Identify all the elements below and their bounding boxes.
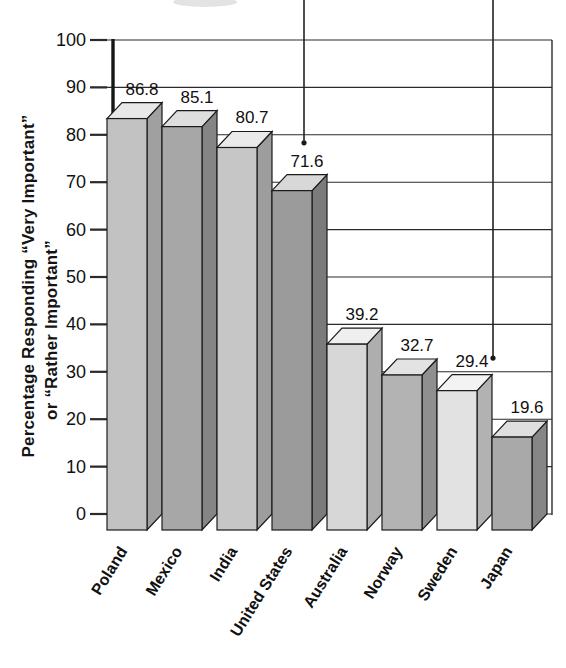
- bar-side-mexico: [202, 111, 217, 530]
- annotation-arrow-tip-united-states: [301, 140, 306, 145]
- bar-front-norway: [382, 375, 422, 530]
- bar-front-mexico: [162, 127, 202, 530]
- value-label-japan: 19.6: [510, 398, 543, 417]
- annotation-arrow-tip-sweden: [490, 355, 495, 360]
- value-label-norway: 32.7: [400, 336, 433, 355]
- y-tick-label-60: 60: [66, 220, 86, 240]
- bar-front-sweden: [437, 391, 477, 530]
- value-label-australia: 39.2: [345, 305, 378, 324]
- y-tick-label-50: 50: [66, 267, 86, 287]
- bar-side-india: [257, 131, 272, 530]
- y-axis-title-line-2: or “Rather Important”: [42, 240, 62, 420]
- y-tick-label-100: 100: [56, 30, 86, 50]
- bar-side-japan: [532, 421, 547, 530]
- y-tick-label-80: 80: [66, 125, 86, 145]
- value-label-sweden: 29.4: [455, 352, 488, 371]
- bar-front-united-states: [272, 191, 312, 530]
- value-label-mexico: 85.1: [180, 88, 213, 107]
- bar-side-sweden: [477, 375, 492, 530]
- y-axis-title-line-1: Percentage Responding “Very Important”: [19, 115, 39, 458]
- y-tick-label-90: 90: [66, 77, 86, 97]
- value-label-india: 80.7: [235, 108, 268, 127]
- bar-front-japan: [492, 437, 532, 530]
- value-label-poland: 86.8: [125, 80, 158, 99]
- y-tick-label-0: 0: [76, 504, 86, 524]
- bar-side-norway: [422, 359, 437, 530]
- bar-side-poland: [147, 103, 162, 530]
- y-tick-label-10: 10: [66, 457, 86, 477]
- y-tick-label-20: 20: [66, 409, 86, 429]
- bar-side-united-states: [312, 175, 327, 530]
- value-label-united-states: 71.6: [290, 152, 323, 171]
- chart-canvas: 86.8Poland85.1Mexico80.7India71.6United …: [0, 0, 566, 668]
- bar-side-australia: [367, 328, 382, 530]
- chart-figure: 86.8Poland85.1Mexico80.7India71.6United …: [0, 0, 566, 668]
- bar-front-australia: [327, 344, 367, 530]
- bar-front-poland: [107, 119, 147, 530]
- bar-front-india: [217, 147, 257, 530]
- y-tick-label-40: 40: [66, 314, 86, 334]
- y-tick-label-30: 30: [66, 362, 86, 382]
- y-tick-label-70: 70: [66, 172, 86, 192]
